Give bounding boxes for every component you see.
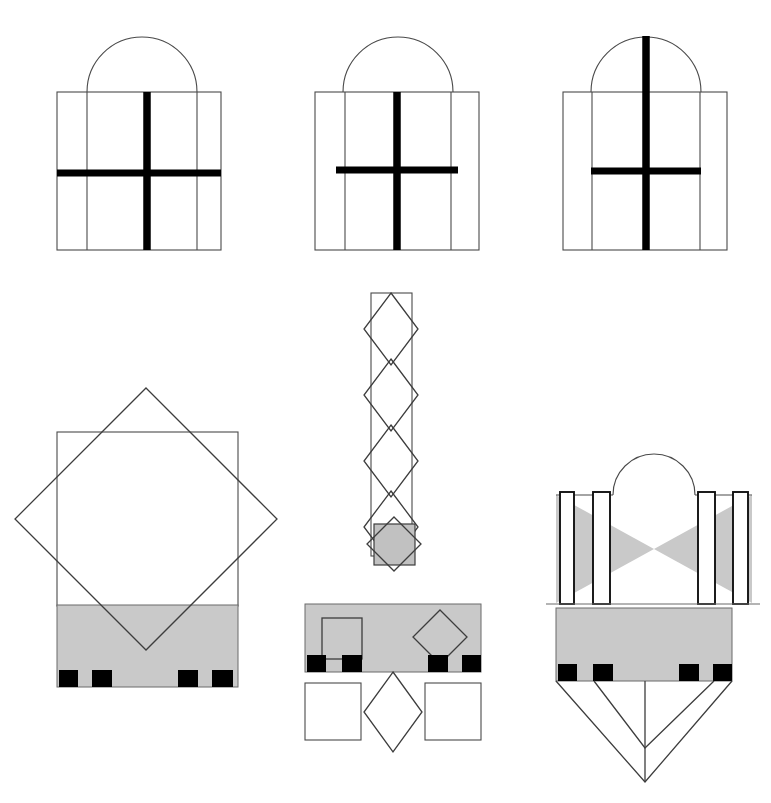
br-block-4 xyxy=(713,664,732,681)
bl-block-4 xyxy=(212,670,233,687)
bl-block-1 xyxy=(59,670,78,687)
br-plinth-band xyxy=(556,608,732,681)
bm-block-3 xyxy=(428,655,448,672)
bm-block-2 xyxy=(342,655,362,672)
br-block-3 xyxy=(679,664,699,681)
fig-bottom-middle xyxy=(305,604,481,752)
fig-center-column xyxy=(364,293,418,563)
br-block-1 xyxy=(558,664,577,681)
fig-bottom-right xyxy=(546,454,760,782)
chain-diamond-2 xyxy=(364,359,418,431)
br-cone-inner xyxy=(594,681,714,748)
fig-top-middle xyxy=(315,37,479,250)
fig-top-right xyxy=(563,36,727,250)
br-pier-3 xyxy=(698,492,715,604)
bm-lower-diamond xyxy=(364,672,422,752)
bl-square xyxy=(57,432,238,606)
bm-plinth-band xyxy=(305,604,481,672)
chain-diamond-3 xyxy=(364,425,418,497)
arch-bottom-right xyxy=(613,454,695,495)
shaft-rect xyxy=(371,293,412,556)
figure-plate xyxy=(0,0,771,803)
plate-canvas xyxy=(0,0,771,803)
bm-lower-square-right xyxy=(425,683,481,740)
fig-bottom-left xyxy=(15,388,277,687)
br-cone-outer xyxy=(556,681,732,782)
bl-block-2 xyxy=(92,670,112,687)
fig-center-star xyxy=(367,517,421,571)
bl-plinth-band xyxy=(57,605,238,687)
br-block-2 xyxy=(593,664,613,681)
bm-block-1 xyxy=(307,655,326,672)
fig-top-left xyxy=(57,37,221,250)
br-pier-2 xyxy=(593,492,610,604)
arch-top-left xyxy=(87,37,197,92)
chain-diamond-1 xyxy=(364,293,418,365)
br-pier-1 xyxy=(560,492,574,604)
bm-block-4 xyxy=(462,655,481,672)
arch-top-middle xyxy=(343,37,453,92)
bm-lower-square-left xyxy=(305,683,361,740)
br-pier-4 xyxy=(733,492,748,604)
bl-block-3 xyxy=(178,670,198,687)
